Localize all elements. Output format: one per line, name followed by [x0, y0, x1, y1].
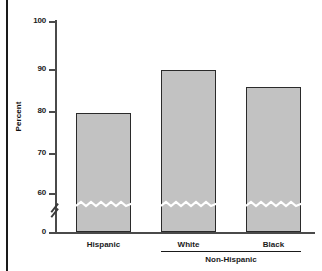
y-tick-label-0: 0: [42, 227, 46, 236]
y-tick-label-100: 100: [33, 16, 46, 25]
bar-black: [246, 87, 301, 232]
x-axis-line: [55, 232, 315, 234]
y-axis-title: Percent: [14, 87, 23, 147]
x-label-hispanic: Hispanic: [76, 240, 131, 249]
y-tick-label-60-wrap: 60: [0, 188, 46, 198]
y-tick-label-100-wrap: 100: [0, 16, 46, 26]
group-bracket-rule: [161, 251, 301, 252]
x-label-black: Black: [246, 240, 301, 249]
group-label-non-hispanic: Non-Hispanic: [161, 255, 301, 264]
y-tick-0: [49, 232, 55, 234]
y-tick-100: [49, 21, 55, 23]
y-tick-label-80-wrap: 80: [0, 106, 46, 116]
y-tick-label-90: 90: [38, 64, 47, 73]
bar-break-zigzag-hispanic: [76, 200, 131, 209]
x-label-white: White: [161, 240, 216, 249]
chart-figure: Percent 100 90 80 70 60 0: [0, 0, 322, 271]
y-tick-label-80: 80: [38, 106, 47, 115]
y-tick-90: [49, 69, 55, 71]
y-tick-label-70-wrap: 70: [0, 148, 46, 158]
bar-hispanic: [76, 113, 131, 232]
y-tick-60: [49, 193, 55, 195]
axis-break-slash-icon: [48, 201, 63, 219]
y-tick-label-0-wrap: 0: [0, 227, 46, 237]
bar-white: [161, 70, 216, 232]
y-tick-70: [49, 153, 55, 155]
y-tick-label-60: 60: [38, 188, 47, 197]
y-tick-80: [49, 111, 55, 113]
y-tick-label-70: 70: [38, 148, 47, 157]
plot-area: Percent 100 90 80 70 60 0: [0, 0, 322, 271]
y-tick-label-90-wrap: 90: [0, 64, 46, 74]
bar-break-zigzag-black: [246, 200, 301, 209]
bar-break-zigzag-white: [161, 200, 216, 209]
